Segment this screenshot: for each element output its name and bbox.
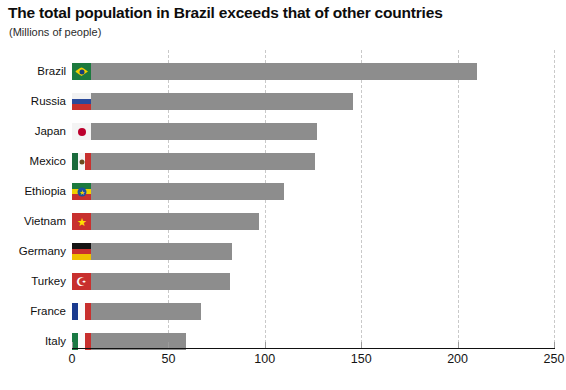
x-tick-label-100: 100: [254, 352, 275, 366]
flag-japan-icon: [72, 123, 91, 140]
x-tick-label-250: 250: [544, 352, 565, 366]
x-tick-label-200: 200: [447, 352, 468, 366]
x-tick-mark-100: [265, 342, 266, 348]
x-tick-mark-150: [361, 342, 362, 348]
flag-brazil-icon: [72, 63, 91, 80]
y-label-russia: Russia: [31, 96, 66, 108]
bar-row[interactable]: [72, 63, 477, 80]
x-tick-label-0: 0: [69, 352, 76, 366]
y-label-italy: Italy: [45, 336, 66, 348]
chart-title: The total population in Brazil exceeds t…: [8, 4, 443, 22]
bar-row[interactable]: ★: [72, 213, 259, 230]
flag-russia-icon: [72, 93, 91, 110]
bar-germany[interactable]: [72, 243, 232, 260]
bar-row[interactable]: [72, 243, 232, 260]
flag-mexico-icon: [72, 153, 91, 170]
flag-turkey-icon: ☪: [72, 273, 91, 290]
x-tick-mark-200: [458, 342, 459, 348]
y-label-turkey: Turkey: [31, 276, 66, 288]
bar-row[interactable]: [72, 93, 353, 110]
flag-ethiopia-icon: ★: [72, 183, 91, 200]
bar-ethiopia[interactable]: [72, 183, 284, 200]
x-tick-mark-250: [554, 342, 555, 348]
y-axis-category-labels: BrazilRussiaJapanMexicoEthiopiaVietnamGe…: [0, 0, 66, 390]
bar-row[interactable]: [72, 123, 317, 140]
bar-vietnam[interactable]: [72, 213, 259, 230]
bar-row[interactable]: ☪: [72, 273, 230, 290]
y-label-germany: Germany: [19, 246, 66, 258]
flag-germany-icon: [72, 243, 91, 260]
x-tick-label-150: 150: [351, 352, 372, 366]
flag-vietnam-icon: ★: [72, 213, 91, 230]
bar-row[interactable]: [72, 153, 315, 170]
bar-row[interactable]: [72, 303, 201, 320]
x-tick-mark-0: [72, 342, 73, 348]
y-label-mexico: Mexico: [30, 156, 66, 168]
gridline-200: [458, 50, 460, 348]
y-label-vietnam: Vietnam: [24, 216, 66, 228]
bar-turkey[interactable]: [72, 273, 230, 290]
bar-russia[interactable]: [72, 93, 353, 110]
bar-row[interactable]: ★: [72, 183, 284, 200]
y-label-japan: Japan: [35, 126, 66, 138]
y-label-france: France: [30, 306, 66, 318]
y-label-ethiopia: Ethiopia: [24, 186, 66, 198]
bar-mexico[interactable]: [72, 153, 315, 170]
x-tick-label-50: 50: [161, 352, 175, 366]
population-bar-chart: The total population in Brazil exceeds t…: [0, 0, 566, 390]
gridline-250: [554, 50, 556, 348]
y-label-brazil: Brazil: [37, 66, 66, 78]
x-tick-mark-50: [168, 342, 169, 348]
bar-france[interactable]: [72, 303, 201, 320]
bar-brazil[interactable]: [72, 63, 477, 80]
x-axis-line: [72, 348, 555, 349]
flag-france-icon: [72, 303, 91, 320]
bar-japan[interactable]: [72, 123, 317, 140]
gridline-150: [361, 50, 363, 348]
